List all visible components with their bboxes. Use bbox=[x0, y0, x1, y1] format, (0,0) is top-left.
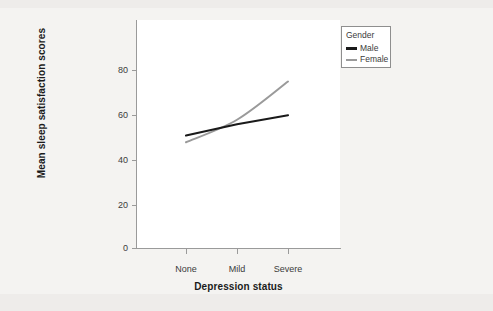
legend-label-male: Male bbox=[360, 43, 378, 54]
y-tick-label-80: 80 bbox=[96, 66, 128, 75]
y-tick-label-20: 20 bbox=[96, 201, 128, 210]
x-axis-line bbox=[136, 248, 341, 249]
x-tick-mark bbox=[288, 249, 289, 254]
legend-swatch-female bbox=[346, 59, 357, 61]
x-axis-title: Depression status bbox=[194, 281, 282, 292]
y-tick-label-text: 80 bbox=[96, 66, 128, 75]
y-tick-mark bbox=[132, 115, 136, 116]
y-tick-mark bbox=[132, 248, 136, 249]
y-tick-label-40: 40 bbox=[96, 156, 128, 165]
y-tick-mark bbox=[132, 205, 136, 206]
x-tick-label-text: None bbox=[175, 264, 197, 274]
x-axis-title-wrapper: Depression status bbox=[136, 276, 341, 294]
y-tick-label-text: 20 bbox=[96, 201, 128, 210]
x-tick-label-text: Mild bbox=[229, 264, 246, 274]
x-tick-label-severe: Severe bbox=[258, 258, 318, 276]
legend-title: Gender bbox=[346, 30, 390, 41]
line-chart-figure: 0 20 40 60 80 None Mild Severe Mean slee… bbox=[0, 0, 493, 311]
legend: Gender Male Female bbox=[341, 26, 391, 68]
x-tick-mark bbox=[237, 249, 238, 254]
y-tick-mark bbox=[132, 70, 136, 71]
plot-panel bbox=[136, 20, 340, 248]
y-tick-mark bbox=[132, 160, 136, 161]
x-tick-mark bbox=[186, 249, 187, 254]
x-tick-label-text: Severe bbox=[274, 264, 303, 274]
legend-entry-female: Female bbox=[346, 54, 390, 65]
y-tick-label-text: 60 bbox=[96, 111, 128, 120]
y-tick-label-text: 40 bbox=[96, 156, 128, 165]
y-tick-label-0: 0 bbox=[96, 244, 128, 253]
legend-label-female: Female bbox=[360, 54, 388, 65]
legend-swatch-male bbox=[346, 47, 357, 50]
y-axis-line bbox=[136, 20, 137, 249]
y-tick-label-text: 0 bbox=[96, 244, 128, 253]
y-tick-label-60: 60 bbox=[96, 111, 128, 120]
legend-entry-male: Male bbox=[346, 43, 390, 54]
y-axis-title-wrapper: Mean sleep satisfaction scores bbox=[31, 3, 49, 203]
y-axis-title: Mean sleep satisfaction scores bbox=[36, 28, 47, 178]
